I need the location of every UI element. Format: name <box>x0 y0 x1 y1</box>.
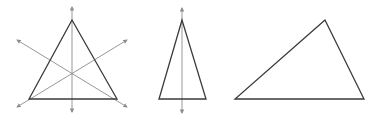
equilateral-triangle-outline <box>29 20 117 99</box>
figures-layer <box>17 7 364 113</box>
equilateral-triangle <box>17 7 127 112</box>
scalene-triangle <box>235 20 364 99</box>
isosceles-triangle-outline <box>159 20 206 99</box>
isosceles-triangle <box>159 8 206 113</box>
scalene-triangle-outline <box>235 20 364 99</box>
triangle-symmetry-diagram <box>0 0 384 118</box>
